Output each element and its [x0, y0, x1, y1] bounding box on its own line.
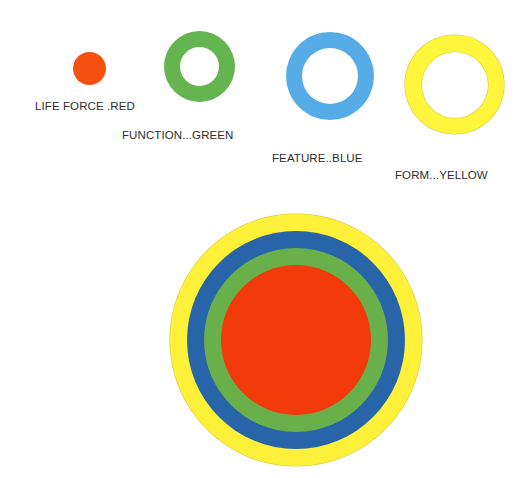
life-force-core-red — [221, 265, 371, 415]
legend-label-red: LIFE FORCE .RED — [35, 101, 135, 113]
red-dot-icon — [73, 52, 106, 85]
legend-label-green: FUNCTION...GREEN — [122, 130, 234, 142]
yellow-ring-icon — [405, 35, 504, 134]
legend-label-blue: FEATURE..BLUE — [272, 153, 363, 165]
legend-label-yellow: FORM...YELLOW — [395, 170, 488, 182]
blue-ring-icon — [286, 32, 374, 120]
green-ring-icon — [164, 31, 235, 102]
yellow-ring-hole — [422, 52, 488, 118]
blue-ring-hole — [302, 48, 358, 104]
green-ring-hole — [180, 47, 219, 86]
